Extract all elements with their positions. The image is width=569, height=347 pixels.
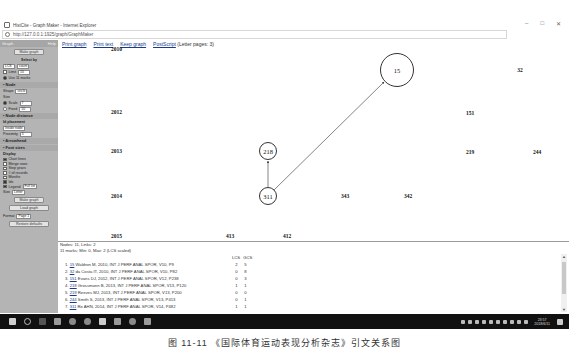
- format-row: FormatPage 1: [0, 213, 58, 219]
- fixed-radio[interactable]: [3, 107, 7, 111]
- sidebar-header: Graph Help: [0, 40, 58, 47]
- legend-row: 4. 218 Grossmann B, 2013, INT J PERF ANA…: [65, 282, 250, 289]
- task-view-icon[interactable]: [39, 318, 46, 325]
- limit-input[interactable]: 10: [18, 70, 30, 75]
- graph-node-311[interactable]: 311: [259, 187, 277, 205]
- legend-row: 6. 244 Smith S, 2013, INT J PERF ANAL SP…: [65, 296, 250, 303]
- volume-icon[interactable]: [503, 320, 507, 324]
- search-icon[interactable]: [24, 318, 31, 325]
- lcs-value: 1: [232, 303, 241, 310]
- file-explorer-icon[interactable]: [54, 318, 61, 325]
- address-bar[interactable]: http://127.0.0.1:1925/graph/GraphMaker: [2, 30, 507, 39]
- app-icon-2[interactable]: [129, 318, 136, 325]
- record-link[interactable]: 151: [70, 276, 77, 281]
- record-link[interactable]: 219: [70, 290, 77, 295]
- legend-checkbox[interactable]: [3, 185, 7, 189]
- postscript-link[interactable]: PostScript: [153, 41, 176, 47]
- use-marks-radio[interactable]: [3, 76, 7, 80]
- graph-node-218[interactable]: 218: [259, 142, 277, 160]
- scale-input[interactable]: 7: [20, 101, 32, 106]
- app-icon-3[interactable]: [144, 318, 151, 325]
- scroll-down-arrow-icon[interactable]: ▼: [561, 307, 567, 312]
- fixed-row: Fixed 10: [0, 106, 58, 112]
- figure-caption: 图 11-11 《国际体育运动表现分析杂志》引文关系图: [0, 336, 569, 347]
- select-by-dropdown[interactable]: LCS: [3, 64, 15, 69]
- tray-icon[interactable]: [524, 320, 528, 324]
- ids-checkbox[interactable]: [3, 180, 7, 184]
- minimize-button[interactable]: –: [525, 20, 528, 27]
- make-graph-button-bottom[interactable]: Make graph: [14, 197, 44, 203]
- clock-date: 2018/6/11: [534, 322, 550, 326]
- record-link[interactable]: 311: [70, 304, 77, 309]
- internet-explorer-taskbar-icon[interactable]: [99, 318, 106, 325]
- graph-node-219[interactable]: 219: [466, 149, 474, 155]
- network-icon[interactable]: [496, 320, 500, 324]
- app-icon[interactable]: [114, 318, 121, 325]
- taskbar-clock[interactable]: 23:57 2018/6/11: [534, 318, 550, 326]
- make-graph-button-top[interactable]: Make graph: [14, 49, 44, 55]
- notification-center-icon[interactable]: [557, 319, 563, 325]
- shape-dropdown[interactable]: circle: [15, 89, 27, 94]
- legend-dropdown[interactable]: Full list: [23, 184, 38, 189]
- record-link[interactable]: 244: [70, 297, 77, 302]
- lcs-value: 0: [232, 289, 241, 296]
- lcs-value: 0: [232, 268, 241, 275]
- graph-node-244[interactable]: 244: [533, 149, 541, 155]
- print-graph-link[interactable]: Print graph: [62, 41, 86, 47]
- lcs-value: 0: [232, 275, 241, 282]
- restore-button[interactable]: □: [540, 20, 544, 27]
- keep-graph-link[interactable]: Keep graph: [120, 41, 146, 47]
- limit-checkbox[interactable]: [3, 70, 7, 74]
- arrowhead-toggle[interactable]: • Arrowhead: [0, 138, 58, 144]
- legend-scrollbar[interactable]: ▲ ▼: [561, 254, 567, 312]
- records-checkbox[interactable]: [3, 171, 7, 175]
- graph-node-342[interactable]: 342: [404, 193, 412, 199]
- link-311-to-15: [274, 82, 384, 190]
- restore-defaults-button[interactable]: Restore defaults: [9, 221, 49, 227]
- load-graph-button[interactable]: Load graph: [9, 205, 49, 211]
- url-text[interactable]: http://127.0.0.1:1925/graph/GraphMaker: [13, 32, 93, 37]
- tray-icon[interactable]: [475, 320, 479, 324]
- graph-node-32[interactable]: 32: [517, 67, 523, 73]
- fixed-input[interactable]: 10: [19, 107, 31, 112]
- scrollbar-thumb[interactable]: [562, 262, 566, 294]
- browser-icon-2[interactable]: [84, 318, 91, 325]
- gcs-value: 5: [241, 261, 250, 268]
- legend-row: 2. 32 da Costa IT, 2010, INT J PERF ANAL…: [65, 268, 250, 275]
- gcs-value: 1: [241, 303, 250, 310]
- graph-node-343[interactable]: 343: [341, 193, 349, 199]
- tray-icon[interactable]: [482, 320, 486, 324]
- start-icon[interactable]: [9, 318, 16, 325]
- letter-pages-note: (Letter pages: 3): [177, 41, 214, 47]
- graph-node-412[interactable]: 412: [283, 233, 291, 239]
- record-link[interactable]: 218: [70, 283, 77, 288]
- id-placement-dropdown[interactable]: Inside node: [3, 126, 25, 131]
- tray-icon[interactable]: [489, 320, 493, 324]
- windows-taskbar: 23:57 2018/6/11: [0, 314, 569, 329]
- window-title: HistCite - Graph Maker - Internet Explor…: [13, 23, 96, 28]
- browser-icon[interactable]: [69, 318, 76, 325]
- help-link[interactable]: Help: [48, 41, 56, 46]
- lcs-value: 0: [232, 296, 241, 303]
- record-link[interactable]: 15: [70, 262, 75, 267]
- close-button[interactable]: ✕: [556, 20, 561, 27]
- tray-icon[interactable]: [468, 320, 472, 324]
- record-link[interactable]: 32: [70, 269, 75, 274]
- select-mode-dropdown[interactable]: count: [17, 64, 29, 69]
- tray-icon[interactable]: [510, 320, 514, 324]
- merge-rows-checkbox[interactable]: [3, 162, 7, 166]
- graph-node-151[interactable]: 151: [466, 110, 474, 116]
- scale-radio[interactable]: [3, 101, 7, 105]
- graph-node-15[interactable]: 15: [380, 53, 414, 87]
- chart-lines-checkbox[interactable]: [3, 158, 7, 162]
- graph-node-413[interactable]: 413: [226, 233, 234, 239]
- months-checkbox[interactable]: [3, 176, 7, 180]
- proximity-input[interactable]: 5: [20, 132, 32, 137]
- format-dropdown[interactable]: Page 1: [16, 214, 31, 219]
- graph-options-sidebar: Graph Help Make graph Select by LCS coun…: [0, 40, 58, 313]
- input-method-icon[interactable]: [517, 320, 521, 324]
- step-years-checkbox[interactable]: [3, 167, 7, 171]
- scroll-up-arrow-icon[interactable]: ▲: [561, 254, 567, 259]
- paper-size-dropdown[interactable]: Letter: [12, 190, 25, 195]
- tray-icon[interactable]: [461, 320, 465, 324]
